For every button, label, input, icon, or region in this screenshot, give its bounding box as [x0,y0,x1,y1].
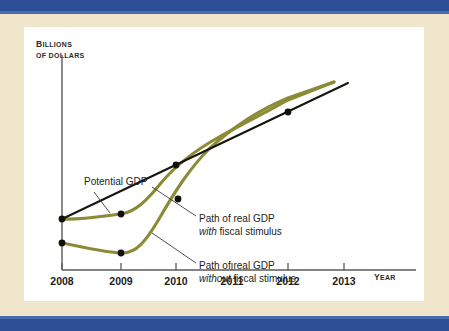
series-line-without-stimulus [62,82,334,253]
data-point-potential-2010 [173,162,180,169]
data-point-without-stimulus-2010 [175,196,182,203]
bottom-decorative-band-highlight [0,316,449,319]
top-decorative-band-highlight [0,11,449,14]
figure-page: BILLIONS OF DOLLARS YEAR 2008 2009 2010 … [0,0,449,331]
top-decorative-band [0,0,449,11]
data-point-without-stimulus-2009 [118,250,125,257]
data-point-without-stimulus-2008 [59,240,66,247]
bottom-decorative-band [0,319,449,331]
plot-area [24,27,424,301]
chart-panel: BILLIONS OF DOLLARS YEAR 2008 2009 2010 … [24,27,424,301]
leader-line-without-stimulus [152,233,196,263]
data-point-potential-2008 [59,216,66,223]
data-point-with-stimulus-2009 [118,211,125,218]
series-line-potential-gdp [62,83,348,219]
data-point-potential-2012 [285,109,292,116]
